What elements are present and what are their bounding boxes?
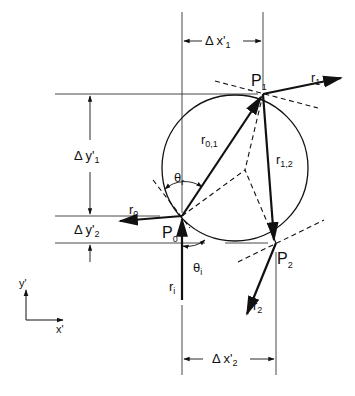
- ray-tracing-diagram: P1 P0 P2 r1 r0 ri r2 r0,1 r1,2 θr θi Δ x…: [0, 0, 355, 396]
- axis-label-x: x': [56, 323, 64, 335]
- label-p1: P1: [251, 72, 267, 92]
- label-r2: r2: [253, 298, 262, 315]
- ray-paths: [120, 78, 341, 314]
- ray-r12: [263, 94, 274, 240]
- label-p2: P2: [277, 250, 293, 270]
- ray-r2: [247, 243, 276, 314]
- label-r12: r1,2: [276, 152, 293, 169]
- label-r0: r0: [129, 202, 138, 219]
- label-r01: r0,1: [201, 132, 218, 149]
- label-r1: r1: [311, 70, 320, 87]
- ray-r1: [263, 78, 341, 94]
- ray-r01: [182, 97, 261, 216]
- label-dy2: Δ y'2: [74, 222, 100, 239]
- label-ri: ri: [169, 279, 175, 296]
- axis-label-y: y': [19, 277, 27, 289]
- label-dx1: Δ x'1: [205, 33, 231, 50]
- label-theta-i: θi: [193, 260, 202, 277]
- label-dx2: Δ x'2: [212, 351, 238, 368]
- label-theta-r: θr: [174, 170, 184, 187]
- label-p0: P0: [162, 224, 178, 244]
- label-dy1: Δ y'1: [74, 148, 100, 165]
- reference-lines: [55, 12, 276, 375]
- coordinate-axes: [26, 290, 63, 320]
